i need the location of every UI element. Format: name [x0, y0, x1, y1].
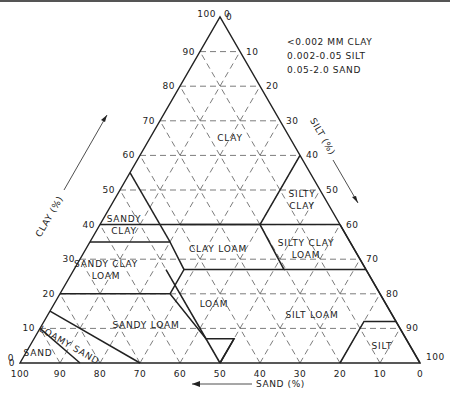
clay-tick-label: 10: [23, 323, 35, 333]
apex-silt-label: 0: [224, 9, 230, 19]
sand-tick-label: 20: [334, 369, 346, 379]
class-label-sandy-clay-loam: SANDY CLAYLOAM: [74, 259, 138, 281]
silt-tick-label: 40: [306, 150, 318, 160]
silt-tick-label: 50: [326, 185, 338, 195]
clay-tick-label: 60: [123, 150, 135, 160]
class-label-text: CLAY LOAM: [189, 244, 247, 254]
class-label-loam: LOAM: [200, 299, 229, 309]
clay-tick-label: 50: [103, 185, 115, 195]
class-label-text: SILT LOAM: [285, 310, 338, 320]
silt-tick-label: 70: [366, 254, 378, 264]
grid-line-silt: [220, 190, 320, 363]
sand-tick-label: 40: [254, 369, 266, 379]
class-label-text: CLAY: [217, 133, 243, 143]
class-label-text: SILT: [372, 341, 393, 351]
class-boundary: [166, 270, 220, 363]
silt-tick-label: 90: [406, 323, 418, 333]
silt-tick-label: 30: [286, 116, 298, 126]
silt-arrow-head-icon: [352, 196, 358, 203]
silt-tick-label: 10: [246, 47, 258, 57]
soil-texture-triangle: 0102030405060708090010203040506070809010…: [0, 0, 450, 400]
class-label-clay: CLAY: [217, 133, 243, 143]
class-label-sandy-loam: SANDY LOAM: [112, 320, 179, 330]
silt-tick-label: 60: [346, 220, 358, 230]
silt-tick-label: 80: [386, 289, 398, 299]
class-label-loamy-sand: LOAMY SAND: [38, 324, 102, 366]
sand-tick-label: 60: [174, 369, 186, 379]
class-label-text: SANDY LOAM: [112, 320, 179, 330]
legend: <0.002 MM CLAY0.002-0.05 SILT0.05-2.0 SA…: [287, 37, 372, 75]
class-label-text: SILTY: [288, 189, 315, 199]
class-label-text: SILTY CLAY: [278, 238, 334, 248]
class-label-text: SANDY: [107, 214, 142, 224]
clay-tick-label: 80: [163, 81, 175, 91]
clay-arrow-head-icon: [101, 115, 107, 122]
class-label-text: CLAY: [289, 201, 315, 211]
sand-tick-label: 50: [214, 369, 226, 379]
sand-tick-label: 30: [294, 369, 306, 379]
clay-axis-arrow: [64, 115, 107, 190]
sand-tick-label: 0: [417, 369, 423, 379]
class-label-silt: SILT: [372, 341, 393, 351]
silt-tick-label: 20: [266, 81, 278, 91]
sand-axis-label: SAND (%): [256, 379, 305, 389]
class-label-text: LOAMY SAND: [38, 324, 102, 366]
class-label-sand: SAND: [24, 348, 53, 358]
apex-clay-label: 100: [197, 9, 216, 19]
class-label-text: LOAM: [292, 250, 321, 260]
grid-lines: [40, 52, 400, 363]
clay-axis-label: CLAY (%): [34, 194, 66, 239]
class-label-text: LOAM: [92, 271, 121, 281]
legend-line: <0.002 MM CLAY: [287, 37, 372, 47]
right-silt-100-label: 100: [426, 352, 445, 362]
class-label-clay-loam: CLAY LOAM: [189, 244, 247, 254]
sand-tick-label: 100: [11, 369, 30, 379]
class-label-silt-loam: SILT LOAM: [285, 310, 338, 320]
class-boundary: [220, 339, 234, 363]
class-labels: CLAYSILTYCLAYSANDYCLAYCLAY LOAMSILTY CLA…: [24, 133, 393, 366]
clay-tick-label: 70: [143, 116, 155, 126]
sand-tick-label: 90: [54, 369, 66, 379]
sand-tick-label: 10: [374, 369, 386, 379]
clay-tick-label: 90: [183, 47, 195, 57]
class-label-text: SAND: [24, 348, 53, 358]
left-clay-0-label: 0: [8, 353, 14, 363]
legend-line: 0.002-0.05 SILT: [287, 51, 366, 61]
legend-line: 0.05-2.0 SAND: [287, 65, 361, 75]
axis-ticks: 0102030405060708090010203040506070809010…: [8, 9, 445, 379]
clay-tick-label: 20: [43, 289, 55, 299]
sand-tick-label: 80: [94, 369, 106, 379]
sand-arrow-head-icon: [192, 381, 200, 387]
class-label-text: SANDY CLAY: [74, 259, 138, 269]
class-label-text: LOAM: [200, 299, 229, 309]
class-label-silty-clay: SILTYCLAY: [288, 189, 315, 211]
class-label-text: CLAY: [111, 226, 137, 236]
sand-tick-label: 70: [134, 369, 146, 379]
clay-tick-label: 40: [83, 220, 95, 230]
